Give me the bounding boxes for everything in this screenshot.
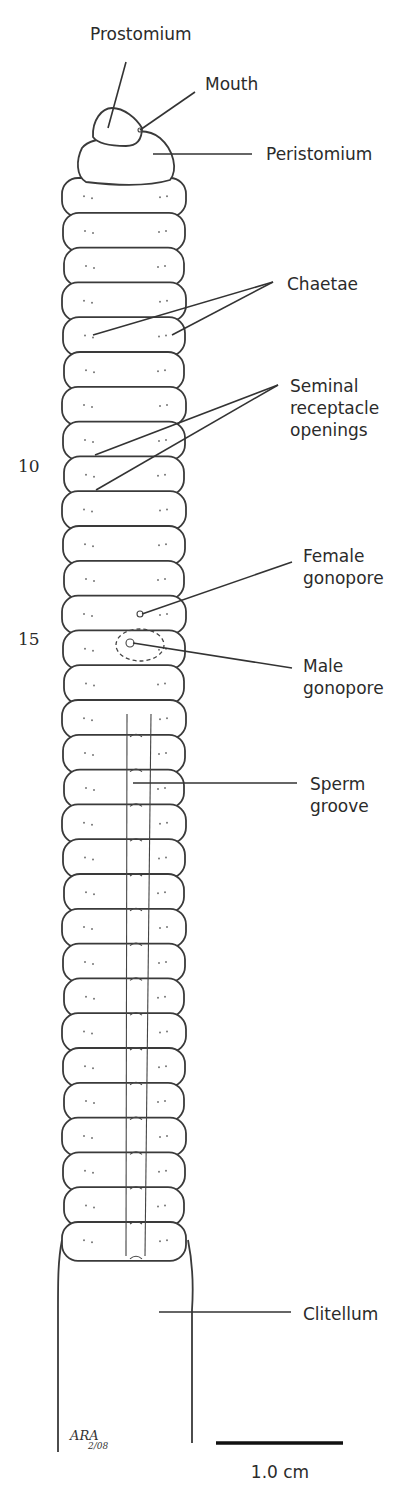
segment	[62, 1013, 186, 1052]
head	[78, 108, 174, 185]
chaeta-dot	[159, 1136, 161, 1138]
chaeta-dot	[85, 474, 87, 476]
chaeta-dot	[92, 232, 94, 234]
chaeta-dot	[91, 510, 93, 512]
segment-number: 15	[18, 629, 40, 649]
chaeta-dot	[165, 543, 167, 545]
scale-bar-label: 1.0 cm	[251, 1462, 309, 1482]
chaeta-dot	[159, 509, 161, 511]
artist-signature: ARA 2/08	[69, 1428, 108, 1451]
label-line: gonopore	[303, 678, 384, 698]
chaeta-dot	[157, 1101, 159, 1103]
chaeta-dot	[83, 508, 85, 510]
chaeta-dot	[84, 752, 86, 754]
chaeta-dot	[158, 544, 160, 546]
segment	[62, 282, 186, 321]
chaeta-dot	[93, 580, 95, 582]
label-line: receptacle	[290, 398, 379, 418]
segment	[62, 491, 186, 530]
chaeta-dot	[164, 787, 166, 789]
chaeta-dot	[157, 1205, 159, 1207]
chaeta-dot	[165, 961, 167, 963]
segment-number: 10	[18, 456, 40, 476]
chaeta-dot	[165, 752, 167, 754]
chaeta-dot	[157, 683, 159, 685]
chaeta-dot	[164, 265, 166, 267]
chaeta-dot	[84, 961, 86, 963]
chaeta-dot	[158, 1066, 160, 1068]
chaeta-dot	[91, 824, 93, 826]
segment	[62, 1222, 186, 1261]
segment	[64, 770, 184, 809]
chaeta-dot	[165, 1170, 167, 1172]
chaeta-dot	[85, 369, 87, 371]
chaeta-dot	[166, 717, 168, 719]
chaeta-dot	[165, 334, 167, 336]
chaeta-dot	[91, 197, 93, 199]
clitellum-shape	[58, 1240, 193, 1452]
chaeta-dot	[92, 754, 94, 756]
chaeta-dot	[164, 369, 166, 371]
segment	[62, 596, 186, 635]
chaeta-dot	[93, 476, 95, 478]
chaetae-leader-2	[172, 282, 273, 335]
chaeta-dot	[85, 1100, 87, 1102]
chaeta-dot	[93, 893, 95, 895]
chaeta-dot	[93, 789, 95, 791]
label-seminal-receptacle-openings: Seminalreceptacleopenings	[290, 376, 379, 440]
chaeta-dot	[158, 649, 160, 651]
segment	[64, 978, 184, 1017]
chaeta-dot	[157, 475, 159, 477]
chaeta-dot	[159, 405, 161, 407]
prostomium-shape	[93, 108, 142, 146]
chaeta-dot	[159, 1031, 161, 1033]
chaeta-dot	[165, 1065, 167, 1067]
chaeta-dot	[93, 1102, 95, 1104]
chaeta-dot	[165, 856, 167, 858]
chaeta-dot	[157, 997, 159, 999]
chaeta-dot	[85, 1204, 87, 1206]
chaeta-dot	[166, 1135, 168, 1137]
chaeta-dot	[166, 195, 168, 197]
chaeta-dot	[85, 787, 87, 789]
chaeta-dot	[83, 926, 85, 928]
segment	[63, 944, 185, 983]
chaeta-dot	[85, 265, 87, 267]
chaeta-dot	[92, 545, 94, 547]
segment	[63, 630, 185, 669]
chaeta-dot	[83, 404, 85, 406]
segment	[64, 1083, 184, 1122]
chaeta-dot	[92, 650, 94, 652]
label-line: openings	[290, 420, 368, 440]
chaeta-dot	[158, 1171, 160, 1173]
chaeta-dot	[84, 648, 86, 650]
chaeta-dot	[159, 718, 161, 720]
chaeta-dot	[83, 195, 85, 197]
chaeta-dot	[91, 1032, 93, 1034]
chaeta-dot	[93, 998, 95, 1000]
segment	[63, 526, 185, 565]
chaeta-dot	[164, 682, 166, 684]
chaeta-dot	[158, 231, 160, 233]
chaeta-dot	[166, 1030, 168, 1032]
label-sperm-groove: Spermgroove	[310, 774, 369, 816]
chaeta-dot	[157, 892, 159, 894]
label-line: Prostomium	[90, 24, 192, 44]
label-mouth: Mouth	[205, 74, 258, 94]
chaeta-dot	[92, 1067, 94, 1069]
chaeta-dot	[84, 230, 86, 232]
chaeta-dot	[84, 439, 86, 441]
label-line: Female	[303, 546, 364, 566]
chaeta-dot	[159, 927, 161, 929]
segment	[64, 665, 184, 704]
chaeta-dot	[93, 684, 95, 686]
chaeta-dot	[85, 891, 87, 893]
chaeta-dot	[93, 267, 95, 269]
chaeta-dot	[91, 928, 93, 930]
segment	[63, 839, 185, 878]
chaeta-dot	[91, 406, 93, 408]
chaeta-dot	[158, 962, 160, 964]
chaeta-dot	[84, 1170, 86, 1172]
chaeta-dot	[164, 1204, 166, 1206]
segment-numbers: 1015	[18, 456, 40, 649]
